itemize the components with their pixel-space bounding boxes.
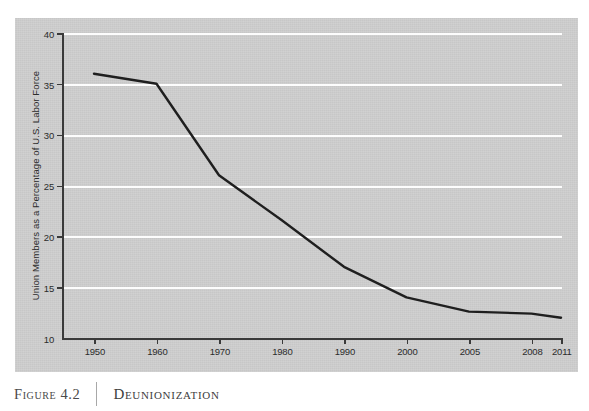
x-tick-label-1950: 1950 <box>85 346 105 357</box>
x-tick-1980: 1980 <box>282 338 284 344</box>
x-tick-2005: 2005 <box>469 338 471 344</box>
x-tick-2008: 2008 <box>532 338 534 344</box>
y-tick-20: 20 <box>57 236 63 238</box>
x-tick-label-1970: 1970 <box>210 346 230 357</box>
y-tick-40: 40 <box>57 33 63 35</box>
y-axis-title-label: Union Members as a Percentage of U.S. La… <box>31 71 42 300</box>
x-tick-1950: 1950 <box>94 338 96 344</box>
y-tick-label-20: 20 <box>44 232 54 243</box>
x-tick-label-1990: 1990 <box>335 346 355 357</box>
y-tick-label-15: 15 <box>44 282 54 293</box>
y-tick-label-35: 35 <box>44 79 54 90</box>
figure-number-label: Figure 4.2 <box>14 386 80 403</box>
caption-divider <box>96 382 97 406</box>
x-tick-1970: 1970 <box>219 338 221 344</box>
x-tick-2011: 2011 <box>561 338 563 344</box>
x-tick-label-2011: 2011 <box>552 346 572 357</box>
x-tick-1960: 1960 <box>157 338 159 344</box>
y-axis-title: Union Members as a Percentage of U.S. La… <box>29 33 43 338</box>
x-tick-label-1980: 1980 <box>272 346 292 357</box>
y-tick-10: 10 <box>57 338 63 340</box>
x-tick-label-1960: 1960 <box>147 346 167 357</box>
chart-panel: Union Members as a Percentage of U.S. La… <box>15 18 578 372</box>
y-tick-30: 30 <box>57 135 63 137</box>
y-tick-label-40: 40 <box>44 28 54 39</box>
figure-container: Union Members as a Percentage of U.S. La… <box>0 0 589 411</box>
plot-area <box>63 33 562 338</box>
figure-caption: Figure 4.2 Deunionization <box>14 381 220 407</box>
y-tick-25: 25 <box>57 186 63 188</box>
y-tick-label-25: 25 <box>44 181 54 192</box>
figure-title: Deunionization <box>113 386 219 403</box>
y-tick-35: 35 <box>57 84 63 86</box>
y-tick-15: 15 <box>57 287 63 289</box>
x-tick-label-2008: 2008 <box>522 346 542 357</box>
y-tick-label-30: 30 <box>44 130 54 141</box>
x-tick-2000: 2000 <box>407 338 409 344</box>
x-axis-line <box>62 338 562 340</box>
x-tick-1990: 1990 <box>344 338 346 344</box>
series-line-union-membership <box>63 33 562 338</box>
y-tick-label-10: 10 <box>44 333 54 344</box>
x-tick-label-2000: 2000 <box>397 346 417 357</box>
x-tick-label-2005: 2005 <box>460 346 480 357</box>
